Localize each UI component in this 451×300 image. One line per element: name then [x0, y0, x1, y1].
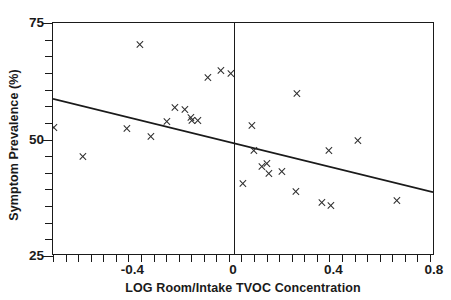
data-point: [136, 40, 145, 49]
data-point: [123, 124, 132, 133]
y-axis-tick: [45, 156, 53, 157]
x-axis-tick: [154, 254, 155, 262]
data-point: [239, 179, 248, 188]
x-axis-tick: [103, 254, 104, 262]
y-axis-tick-label: 25: [29, 248, 44, 263]
x-axis-tick: [78, 254, 79, 262]
x-axis-tick-label: 0: [229, 262, 237, 277]
data-point: [264, 169, 273, 178]
y-axis-tick: [45, 223, 53, 224]
x-axis-tick: [367, 254, 368, 262]
y-axis-tick: [45, 56, 53, 57]
y-axis-tick-label: 50: [29, 131, 44, 146]
x-axis-tick: [141, 254, 142, 262]
data-point: [324, 146, 333, 155]
data-point: [216, 66, 225, 75]
data-point: [248, 121, 257, 130]
data-point: [263, 159, 272, 168]
y-axis-tick: [45, 173, 53, 174]
x-axis-tick: [430, 254, 431, 262]
x-axis-tick: [66, 254, 67, 262]
x-axis-tick: [191, 254, 192, 262]
data-point: [226, 69, 235, 78]
x-axis-tick-label: -0.4: [121, 262, 144, 277]
x-axis-tick: [355, 254, 356, 262]
x-axis-tick: [179, 254, 180, 262]
data-point: [250, 146, 259, 155]
data-points-layer: [53, 23, 433, 254]
data-point: [326, 201, 335, 210]
x-axis-tick: [128, 254, 129, 262]
x-axis-tick: [216, 254, 217, 262]
data-point: [79, 152, 88, 161]
data-point: [170, 103, 179, 112]
x-axis-tick: [229, 254, 230, 262]
data-point: [203, 73, 212, 82]
y-axis-title: Symptom Prevalence (%): [7, 45, 21, 245]
x-axis-tick: [317, 254, 318, 262]
x-axis-tick: [392, 254, 393, 262]
x-axis-tick: [254, 254, 255, 262]
x-axis-tick: [342, 254, 343, 262]
y-axis-tick: [45, 239, 53, 240]
x-axis-tick-label: 0.8: [425, 262, 444, 277]
y-axis-tick-major: [42, 23, 53, 24]
data-point: [193, 116, 202, 125]
y-axis-tick-label: 75: [29, 15, 44, 30]
x-axis-tick: [292, 254, 293, 262]
data-point: [392, 196, 401, 205]
y-axis-tick: [45, 206, 53, 207]
x-axis-tick: [380, 254, 381, 262]
y-axis-tick: [45, 40, 53, 41]
x-axis-tick: [304, 254, 305, 262]
data-point: [147, 132, 156, 141]
plot-area: [52, 22, 434, 255]
data-point: [292, 187, 301, 196]
x-axis-tick: [329, 254, 330, 262]
x-axis-tick: [417, 254, 418, 262]
x-axis-tick: [267, 254, 268, 262]
x-axis-tick-label: 0.4: [324, 262, 343, 277]
x-axis-tick: [405, 254, 406, 262]
y-axis-tick: [45, 123, 53, 124]
y-axis-tick: [45, 189, 53, 190]
x-axis-tick: [279, 254, 280, 262]
x-axis-tick: [53, 254, 54, 262]
y-axis-tick: [45, 90, 53, 91]
data-point: [53, 123, 59, 132]
data-point: [278, 167, 287, 176]
x-axis-tick: [116, 254, 117, 262]
y-axis-tick-major: [42, 140, 53, 141]
y-axis-tick: [45, 73, 53, 74]
data-point: [292, 89, 301, 98]
y-axis-tick: [45, 106, 53, 107]
x-axis-tick: [241, 254, 242, 262]
x-axis-tick: [204, 254, 205, 262]
x-axis-title: LOG Room/Intake TVOC Concentration: [52, 281, 434, 295]
y-axis-tick-major: [42, 256, 53, 257]
x-axis-tick: [91, 254, 92, 262]
data-point: [353, 136, 362, 145]
data-point: [162, 117, 171, 126]
chart-figure: 255075 Symptom Prevalence (%) -0.400.40.…: [0, 0, 451, 300]
x-axis-tick: [166, 254, 167, 262]
